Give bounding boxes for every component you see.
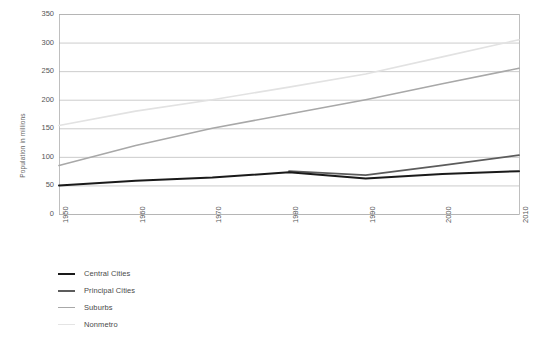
legend-item[interactable]: Principal Cities — [58, 282, 298, 299]
legend-item-label: Central Cities — [84, 269, 130, 278]
series-line-central-cities — [59, 171, 519, 185]
legend-item-label: Suburbs — [84, 303, 113, 312]
legend-item[interactable]: Suburbs — [58, 299, 298, 316]
legend-swatch-icon — [58, 307, 75, 308]
legend-item[interactable]: Central Cities — [58, 265, 298, 282]
legend-item[interactable]: Nonmetro — [58, 316, 298, 333]
series-line-suburbs — [59, 68, 519, 165]
legend-swatch-icon — [58, 324, 75, 325]
legend-item-label: Nonmetro — [84, 320, 118, 329]
legend-swatch-icon — [58, 273, 75, 275]
legend-item-label: Principal Cities — [84, 286, 135, 295]
population-line-chart: Population in millions 05010015020025030… — [0, 0, 534, 339]
legend-swatch-icon — [58, 290, 75, 292]
chart-legend: Central CitiesPrincipal CitiesSuburbsNon… — [58, 265, 298, 333]
